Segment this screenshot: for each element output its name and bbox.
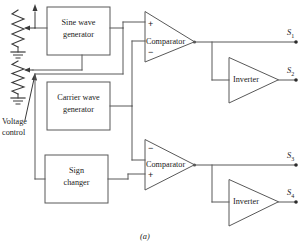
- output-s2-index: 2: [291, 71, 294, 77]
- comparator-bottom-label: Comparator: [146, 160, 185, 169]
- sign-changer-label-line1: Sign: [45, 166, 108, 175]
- voltage-control-label-line2: control: [2, 128, 25, 137]
- inverter-bottom-label: Inverter: [233, 197, 259, 206]
- circuit-diagram-figure: index Sine wave generator Carrier wave g…: [0, 0, 307, 249]
- output-s3-index: 3: [291, 156, 294, 162]
- comparator-top-minus-sign: −: [148, 47, 153, 57]
- sine-wave-generator-label-line2: generator: [47, 30, 110, 39]
- sign-changer-label-line2: changer: [45, 178, 108, 187]
- output-s4-label: S4: [287, 188, 294, 199]
- voltage-control-label-line1: Voltage: [2, 117, 27, 126]
- output-s4-index: 4: [291, 193, 294, 199]
- carrier-wave-generator-label-line1: Carrier wave: [45, 93, 112, 102]
- figure-caption: (a): [140, 232, 150, 241]
- output-s1-label: S1: [287, 28, 294, 39]
- output-s3-label: S3: [287, 151, 294, 162]
- sine-wave-generator-label-line1: Sine wave: [47, 18, 110, 27]
- output-s1-index: 1: [291, 33, 294, 39]
- output-s2-label: S2: [287, 66, 294, 77]
- carrier-wave-generator-label-line2: generator: [45, 105, 112, 114]
- comparator-top-plus-sign: +: [148, 19, 153, 29]
- potentiometer-top: [11, 4, 47, 58]
- comparator-bottom-plus-sign: +: [148, 170, 153, 180]
- comparator-bottom-minus-sign: −: [148, 143, 153, 153]
- inverter-top-label: Inverter: [233, 75, 259, 84]
- comparator-top-label: Comparator: [146, 37, 185, 46]
